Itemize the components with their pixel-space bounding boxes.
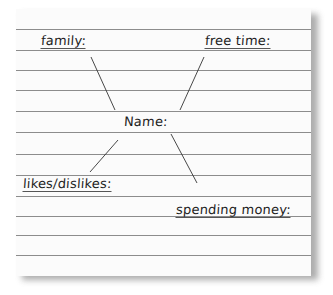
branch-free-time: free time: [204,34,271,49]
branch-spending-money: spending money: [175,203,291,218]
branch-likes-dislikes: likes/dislikes: [22,177,112,192]
connector-free-time [180,57,204,110]
center-name: Name: [123,114,168,129]
connector-likes [90,140,118,172]
branch-family: family: [40,34,86,49]
connector-spending [171,134,197,183]
connector-family [91,57,115,110]
